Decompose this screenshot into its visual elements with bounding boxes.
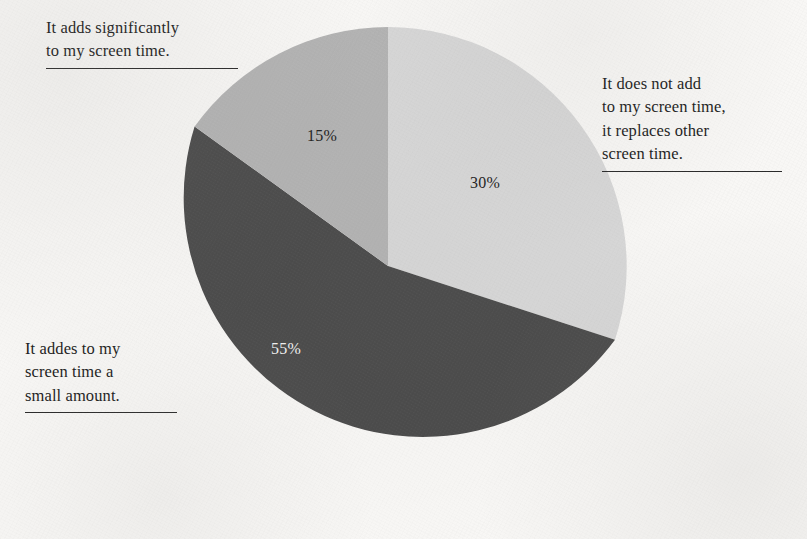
slice-value-label-15: 15% <box>307 127 337 145</box>
callout-small-amount: It addes to my screen time a small amoun… <box>25 337 177 413</box>
callout-line: It adds significantly <box>46 16 238 39</box>
callout-line: screen time a <box>25 360 177 383</box>
callout-line: to my screen time, <box>602 95 782 118</box>
callout-rule <box>602 171 782 172</box>
callout-line: it replaces other <box>602 119 782 142</box>
callout-line: It does not add <box>602 72 782 95</box>
callout-rule <box>46 68 238 69</box>
slice-value-label-30: 30% <box>470 174 500 192</box>
pie-halftone-overlay <box>149 27 627 505</box>
pie-chart-figure: 15% 30% 55% It adds significantly to my … <box>0 0 807 539</box>
callout-adds-significantly: It adds significantly to my screen time. <box>46 16 238 69</box>
callout-rule <box>25 412 177 413</box>
callout-line: to my screen time. <box>46 39 238 62</box>
callout-replaces-screen-time: It does not add to my screen time, it re… <box>602 72 782 172</box>
callout-line: screen time. <box>602 142 782 165</box>
slice-value-label-55: 55% <box>271 340 301 358</box>
callout-line: small amount. <box>25 384 177 407</box>
callout-line: It addes to my <box>25 337 177 360</box>
